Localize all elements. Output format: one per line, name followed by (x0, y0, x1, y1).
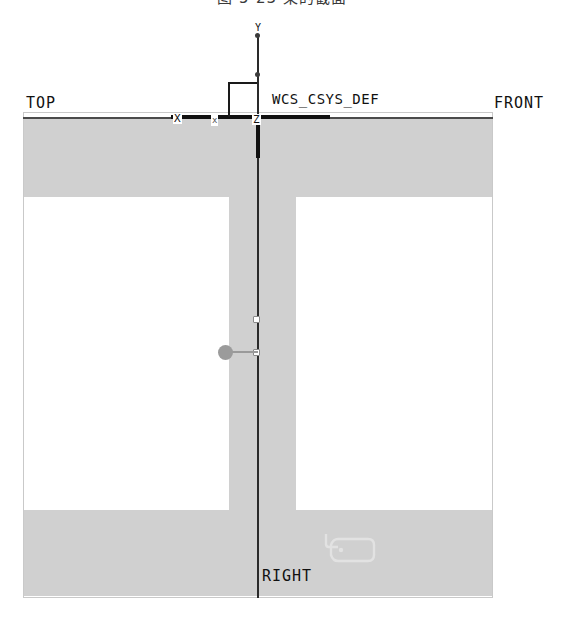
view-label-front[interactable]: FRONT (494, 94, 544, 112)
vertex-handle-upper[interactable] (253, 316, 260, 323)
axis-label-y: Y (254, 22, 262, 33)
axis-label-x-secondary: x (211, 115, 218, 126)
datum-line-horizontal-left (23, 117, 171, 119)
csys-name-label[interactable]: WCS_CSYS_DEF (272, 91, 379, 107)
axis-label-z: Z (252, 114, 261, 125)
leader-grip-handle[interactable] (218, 345, 233, 360)
axis-node-y-mid[interactable] (255, 72, 260, 77)
view-label-top[interactable]: TOP (26, 94, 56, 112)
figure-caption-clip: 图 5-23 梁的截面 (0, 0, 564, 9)
axis-label-x: X (173, 113, 182, 124)
note-tag-icon (324, 528, 382, 568)
figure-caption: 图 5-23 梁的截面 (0, 0, 564, 7)
right-angle-marker-icon (228, 82, 257, 117)
axis-node-y-tip[interactable] (255, 33, 260, 38)
drawing-screen: 图 5-23 梁的截面 TOP FRONT RIGHT WCS_CSYS_DEF… (0, 0, 564, 623)
view-label-right[interactable]: RIGHT (262, 567, 312, 585)
ibeam-web (229, 197, 296, 510)
datum-line-horizontal-right (330, 117, 493, 119)
